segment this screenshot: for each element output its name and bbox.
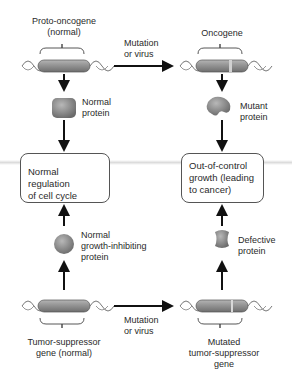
out-of-control-growth-box: Out-of-control growth (leading to cancer… [181, 153, 264, 203]
mutation-label-bottom: Mutation or virus [124, 315, 159, 337]
growth-inhibiting-protein-label: Normal growth-inhibiting protein [81, 230, 147, 263]
oncogene-label: Oncogene [190, 28, 254, 39]
mutated-tumor-suppressor-dna [180, 300, 272, 328]
tumor-suppressor-dna [22, 300, 114, 328]
defective-protein-shape [215, 230, 229, 248]
proto-oncogene-label: Proto-oncogene (normal) [22, 16, 106, 38]
proto-oncogene-dna [22, 44, 114, 72]
growth-inhibiting-protein-shape [54, 234, 74, 254]
mutant-protein-shape [207, 97, 231, 116]
normal-regulation-box: Normal regulation of cell cycle [20, 153, 110, 203]
oncogene-dna [180, 44, 272, 72]
mutant-protein-label: Mutant protein [240, 101, 268, 123]
mutated-tumor-suppressor-label: Mutated tumor-suppressor gene [178, 337, 270, 370]
mutation-label-top: Mutation or virus [124, 38, 159, 60]
normal-protein-label: Normal protein [82, 97, 111, 119]
tumor-suppressor-label: Tumor-suppressor gene (normal) [18, 337, 110, 359]
normal-protein-shape [52, 98, 76, 118]
defective-protein-label: Defective protein [238, 235, 276, 257]
